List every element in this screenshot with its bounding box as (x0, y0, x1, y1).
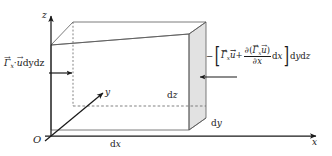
gamma-vector-left: →Γ (4, 58, 10, 67)
dydz-term-right: dydz (290, 52, 310, 61)
vector-arrow-icon: → (221, 47, 227, 54)
u-vector-left: →u (17, 58, 23, 67)
u-vector-num: →u (261, 46, 266, 55)
outflow-flux-expression: −[→Γx→u+∂(→Γx→u)∂xdx]dydz (206, 46, 310, 66)
partial-derivative-fraction: ∂(→Γx→u)∂x (244, 46, 271, 66)
axis-label-z: z (42, 11, 47, 20)
dy-var: y (217, 118, 222, 128)
y-axis (45, 93, 103, 141)
dimension-label-dx: dx (110, 140, 121, 149)
vector-arrow-icon: → (4, 54, 10, 62)
vector-arrow-icon: → (17, 54, 23, 62)
first-term: →Γx→u+ (221, 51, 243, 61)
dx-var: x (116, 139, 121, 149)
dz-var-right: z (306, 51, 311, 61)
dx-var-right: x (277, 51, 282, 61)
gamma-vector-right: →Γ (221, 51, 227, 60)
axis-label-x: x (312, 138, 317, 147)
outflow-face-shaded (189, 22, 206, 130)
figure-canvas: z y x O dx dy dz →Γx·→udydz −[→Γx→u+∂(→Γ… (0, 0, 332, 156)
dz-var: z (173, 90, 178, 100)
dy-term-left: dy (23, 57, 34, 68)
fraction-denominator: ∂x (244, 56, 271, 66)
control-volume-drawing (0, 0, 332, 156)
paren-close: ) (267, 45, 270, 55)
minus-sign: − (206, 52, 213, 61)
axis-label-origin: O (33, 135, 41, 145)
inflow-flux-expression: →Γx·→udydz (4, 58, 44, 69)
dimension-label-dy: dy (211, 119, 222, 128)
front-face (51, 34, 189, 130)
vector-arrow-icon: → (261, 42, 266, 49)
vector-arrow-icon: → (252, 42, 258, 49)
axis-label-y: y (105, 88, 110, 97)
vector-arrow-icon: → (230, 47, 236, 54)
u-vector-right: →u (230, 51, 236, 60)
denominator-variable: x (257, 56, 262, 66)
top-face (51, 22, 206, 45)
dimension-label-dz: dz (167, 91, 178, 100)
plus-sign: + (236, 50, 243, 60)
dx-term-right: dx (272, 52, 282, 61)
fraction-numerator: ∂(→Γx→u) (244, 46, 271, 56)
dz-term-left: dz (34, 57, 45, 68)
gamma-vector-num: →Γ (252, 46, 258, 55)
